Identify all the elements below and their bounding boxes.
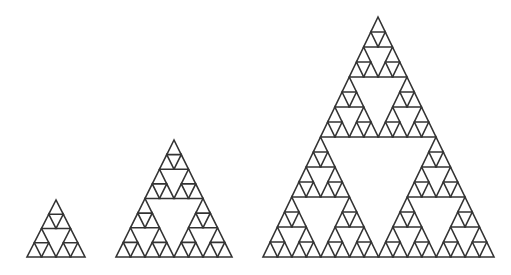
triangle-outline — [203, 242, 218, 257]
triangle-outline — [385, 47, 399, 62]
triangle-outline — [342, 77, 356, 92]
triangle-outline — [400, 77, 414, 92]
triangle-outline — [364, 122, 378, 137]
triangle-outline — [160, 184, 175, 199]
triangle-outline — [174, 155, 189, 170]
triangle-outline — [480, 242, 494, 257]
triangle-outline — [407, 182, 421, 197]
triangle-outline — [181, 228, 196, 243]
triangle-outline — [321, 122, 335, 137]
triangle-outline — [152, 169, 167, 184]
triangle-outline — [414, 107, 428, 122]
triangle-outline — [321, 242, 335, 257]
triangle-outline — [277, 212, 291, 227]
triangle-outline — [451, 212, 465, 227]
triangle-outline — [181, 169, 196, 184]
triangle-outline — [349, 92, 363, 107]
triangle-outline — [429, 137, 443, 152]
triangle-outline — [356, 47, 370, 62]
triangle-outline — [415, 227, 429, 242]
triangle-outline — [364, 242, 378, 257]
triangle-outline — [145, 242, 160, 257]
triangle-outline — [160, 242, 175, 257]
triangle-outline — [472, 227, 486, 242]
triangle-outline — [328, 167, 342, 182]
triangle-outline — [42, 243, 57, 257]
triangle-outline — [189, 242, 204, 257]
triangle-outline — [393, 212, 407, 227]
triangle-outline — [49, 200, 64, 214]
triangle-outline — [34, 229, 49, 243]
triangle-outline — [422, 152, 436, 167]
triangle-outline — [174, 184, 189, 199]
triangle-outline — [174, 242, 189, 257]
triangle-outline — [451, 242, 465, 257]
triangle-outline — [63, 229, 78, 243]
triangle-outline — [56, 214, 71, 228]
triangle-outline — [321, 182, 335, 197]
triangle-outline — [443, 167, 457, 182]
triangle-outline — [263, 242, 277, 257]
triangle-outline — [313, 137, 327, 152]
triangle-outline — [443, 227, 457, 242]
triangle-outline — [451, 182, 465, 197]
triangle-outline — [349, 122, 363, 137]
triangle-outline — [328, 227, 342, 242]
triangle-outline — [458, 197, 472, 212]
triangle-outline — [350, 212, 364, 227]
triangle-outline — [407, 242, 421, 257]
triangle-outline — [160, 155, 175, 170]
triangle-outline — [56, 243, 71, 257]
triangle-outline — [292, 242, 306, 257]
triangle-outline — [335, 242, 349, 257]
triangle-outline — [436, 242, 450, 257]
triangle-outline — [414, 167, 428, 182]
triangle-outline — [350, 242, 364, 257]
triangle-outline — [218, 242, 233, 257]
triangle-outline — [422, 182, 436, 197]
triangle-outline — [321, 152, 335, 167]
triangle-outline — [357, 227, 371, 242]
triangle-outline — [210, 228, 225, 243]
triangle-outline — [167, 140, 182, 155]
triangle-outline — [42, 214, 57, 228]
triangle-outline — [465, 212, 479, 227]
triangle-outline — [123, 228, 138, 243]
triangle-outline — [131, 242, 146, 257]
triangle-outline — [378, 32, 392, 47]
triangle-outline — [145, 213, 160, 228]
triangle-outline — [407, 92, 421, 107]
triangle-outline — [385, 107, 399, 122]
triangle-outline — [328, 107, 342, 122]
triangle-outline — [299, 167, 313, 182]
triangle-outline — [131, 213, 146, 228]
sierpinski-diagram — [0, 0, 511, 275]
triangle-outline — [285, 197, 299, 212]
triangle-outline — [436, 152, 450, 167]
triangle-outline — [145, 184, 160, 199]
triangle-outline — [277, 242, 291, 257]
triangle-outline — [400, 197, 414, 212]
triangle-outline — [407, 212, 421, 227]
triangle-outline — [407, 122, 421, 137]
triangle-outline — [436, 182, 450, 197]
triangle-outline — [196, 199, 211, 214]
triangle-outline — [357, 107, 371, 122]
triangle-outline — [364, 32, 378, 47]
triangle-outline — [393, 242, 407, 257]
triangle-outline — [379, 242, 393, 257]
triangle-outline — [292, 182, 306, 197]
triangle-outline — [71, 243, 86, 257]
triangle-outline — [335, 182, 349, 197]
triangle-outline — [393, 92, 407, 107]
triangle-outline — [335, 92, 349, 107]
triangle-outline — [422, 242, 436, 257]
triangle-outline — [386, 227, 400, 242]
triangle-outline — [306, 152, 320, 167]
triangle-outline — [364, 62, 378, 77]
triangle-outline — [116, 242, 131, 257]
triangle-outline — [335, 122, 349, 137]
triangle-outline — [393, 62, 407, 77]
triangle-outline — [189, 184, 204, 199]
triangle-outline — [378, 62, 392, 77]
